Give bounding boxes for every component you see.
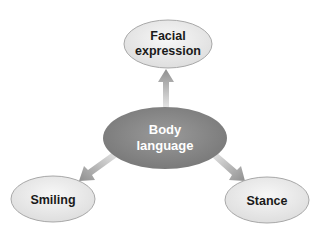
node-label-line: Smiling: [30, 193, 75, 207]
node-label-line: expression: [135, 44, 201, 58]
node-smiling: Smiling: [11, 176, 95, 222]
center-label-line: Body: [149, 122, 182, 137]
arrow-to-facial-expression: [158, 69, 174, 108]
node-label-line: Stance: [247, 194, 288, 208]
arrow-to-smiling: [79, 152, 117, 181]
arrow-to-stance: [212, 152, 245, 181]
node-body-language: Body language: [103, 107, 227, 169]
node-label-line: Facial: [150, 29, 185, 43]
body-language-diagram: Facial expression Body language Smiling …: [0, 0, 327, 245]
center-label-line: language: [136, 138, 193, 153]
node-facial-expression: Facial expression: [124, 20, 212, 68]
node-stance: Stance: [225, 177, 309, 223]
